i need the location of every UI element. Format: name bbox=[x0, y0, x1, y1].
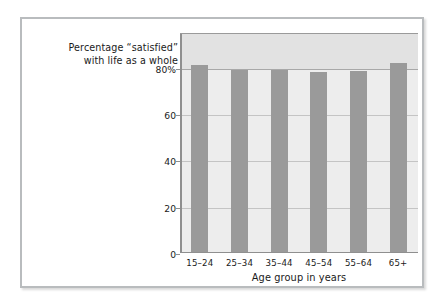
x-tick-label-65+: 65+ bbox=[389, 258, 408, 268]
gridline-80 bbox=[180, 69, 418, 70]
bar-55–64[interactable] bbox=[350, 71, 367, 251]
y-tick-label-20: 20 bbox=[164, 202, 176, 213]
gridline-40 bbox=[180, 161, 418, 162]
upper-shaded-band bbox=[180, 34, 418, 69]
caption-line-1: Percentage “satisfied” bbox=[30, 41, 178, 54]
y-axis-line bbox=[180, 34, 182, 253]
x-tick-label-15–24: 15–24 bbox=[186, 258, 213, 268]
figure-container: Percentage “satisfied” with life as a wh… bbox=[0, 0, 444, 305]
gridline-20 bbox=[180, 208, 418, 209]
bar-35–44[interactable] bbox=[271, 70, 288, 251]
bar-65+[interactable] bbox=[390, 63, 407, 251]
y-tick-label-60: 60 bbox=[164, 110, 176, 121]
bar-25–34[interactable] bbox=[231, 70, 248, 251]
gridline-60 bbox=[180, 115, 418, 116]
plot-area: 020406080% 15–2425–3435–4445–5455–6465+ … bbox=[180, 33, 418, 253]
x-tick-label-45–54: 45–54 bbox=[305, 258, 332, 268]
x-tick-label-55–64: 55–64 bbox=[345, 258, 372, 268]
x-axis-label: Age group in years bbox=[180, 272, 418, 283]
x-tick-label-35–44: 35–44 bbox=[266, 258, 293, 268]
y-tick-label-40: 40 bbox=[164, 156, 176, 167]
x-tick-label-25–34: 25–34 bbox=[226, 258, 253, 268]
bar-15–24[interactable] bbox=[191, 65, 208, 251]
x-axis-baseline bbox=[180, 252, 418, 254]
bar-45–54[interactable] bbox=[310, 72, 327, 251]
y-tick-label-80: 80% bbox=[156, 63, 176, 74]
chart-frame: Percentage “satisfied” with life as a wh… bbox=[20, 17, 424, 288]
y-tick-mark-0 bbox=[176, 254, 180, 255]
